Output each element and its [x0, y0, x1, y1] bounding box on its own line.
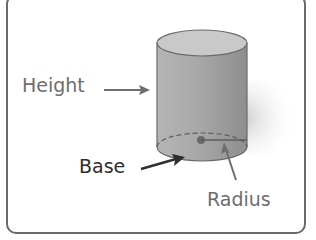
cylinder-top: [157, 30, 247, 56]
height-label: Height: [22, 76, 85, 95]
base-arrow: [141, 159, 176, 169]
radius-label: Radius: [207, 190, 271, 209]
base-label: Base: [79, 157, 125, 176]
